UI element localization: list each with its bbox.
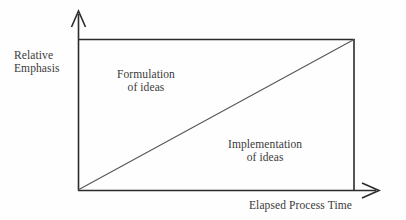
region-label-implementation-line-1: Implementation (228, 138, 302, 151)
region-label-implementation: Implementation of ideas (228, 138, 302, 164)
x-axis-title: Elapsed Process Time (249, 199, 352, 212)
region-label-implementation-line-2: of ideas (228, 151, 302, 164)
diagram-canvas: Relative Emphasis Formulation of ideas I… (0, 0, 406, 220)
diagonal-divider-line (78, 40, 354, 191)
diagram-vector-layer (0, 0, 406, 220)
y-axis-title-line-2: Emphasis (14, 62, 60, 75)
y-axis-title: Relative Emphasis (14, 49, 60, 75)
region-label-formulation: Formulation of ideas (117, 68, 175, 94)
x-axis-title-text: Elapsed Process Time (249, 199, 352, 212)
region-label-formulation-line-2: of ideas (117, 81, 175, 94)
region-label-formulation-line-1: Formulation (117, 68, 175, 81)
y-axis-title-line-1: Relative (14, 49, 60, 62)
